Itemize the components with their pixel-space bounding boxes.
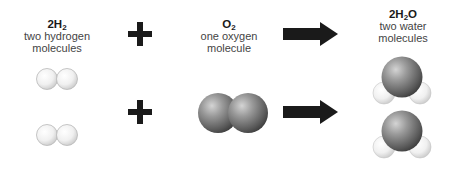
hydrogen-molecule — [37, 125, 78, 146]
water-molecule — [373, 57, 431, 105]
plus-icon — [128, 22, 152, 46]
arrow-right-icon — [283, 22, 338, 46]
arrow-right-icon — [283, 100, 338, 124]
reaction-diagram — [0, 0, 449, 170]
plus-icon — [128, 100, 152, 124]
water-molecule — [373, 111, 431, 159]
oxygen-molecule — [198, 93, 268, 133]
hydrogen-molecule — [37, 69, 78, 90]
